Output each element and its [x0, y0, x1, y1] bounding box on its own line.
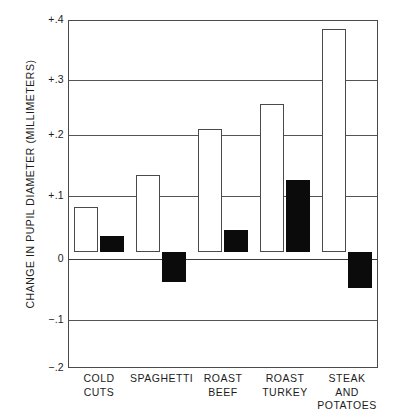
x-tick-label-line: COLD [68, 372, 130, 386]
bar-black[interactable] [286, 180, 310, 253]
bar-chart: CHANGE IN PUPIL DIAMETER (MILLIMETERS) +… [0, 0, 397, 419]
x-tick-label-line: BEEF [192, 386, 254, 400]
y-tick-label: +.3 [20, 73, 64, 85]
y-tick-label: +.2 [20, 128, 64, 140]
x-tick-label: ROASTTURKEY [254, 372, 316, 399]
y-axis-title: CHANGE IN PUPIL DIAMETER (MILLIMETERS) [24, 14, 36, 354]
x-axis-tick-labels: COLDCUTSSPAGHETTIROASTBEEFROASTTURKEYSTE… [68, 372, 378, 416]
x-tick-label-line: ROAST [192, 372, 254, 386]
y-tick-label: 0 [20, 252, 64, 264]
bar-group [68, 20, 130, 368]
y-tick-label: +.4 [20, 13, 64, 25]
bar-black[interactable] [100, 236, 124, 252]
bar-white[interactable] [136, 175, 160, 252]
x-tick-label-line: TURKEY [254, 386, 316, 400]
x-tick-label-line: STEAK AND [316, 372, 378, 399]
bar-white[interactable] [322, 29, 346, 252]
x-tick-label-line: ROAST [254, 372, 316, 386]
bar-white[interactable] [260, 104, 284, 252]
bar-black[interactable] [348, 252, 372, 288]
x-tick-label-line: CUTS [68, 386, 130, 400]
bar-group [130, 20, 192, 368]
y-tick-label: −.1 [20, 313, 64, 325]
x-tick-label: ROASTBEEF [192, 372, 254, 399]
bar-white[interactable] [74, 207, 98, 252]
x-tick-label: COLDCUTS [68, 372, 130, 399]
bar-black[interactable] [224, 230, 248, 252]
x-tick-label-line: SPAGHETTI [130, 372, 192, 386]
bar-group [316, 20, 378, 368]
y-tick-label: −.2 [20, 361, 64, 373]
x-tick-label: STEAK ANDPOTATOES [316, 372, 378, 413]
bars-layer [68, 20, 378, 368]
x-tick-label-line: POTATOES [316, 399, 378, 413]
bar-group [254, 20, 316, 368]
y-tick-label: +.1 [20, 189, 64, 201]
x-tick-label: SPAGHETTI [130, 372, 192, 386]
bar-group [192, 20, 254, 368]
bar-black[interactable] [162, 252, 186, 282]
bar-white[interactable] [198, 129, 222, 252]
